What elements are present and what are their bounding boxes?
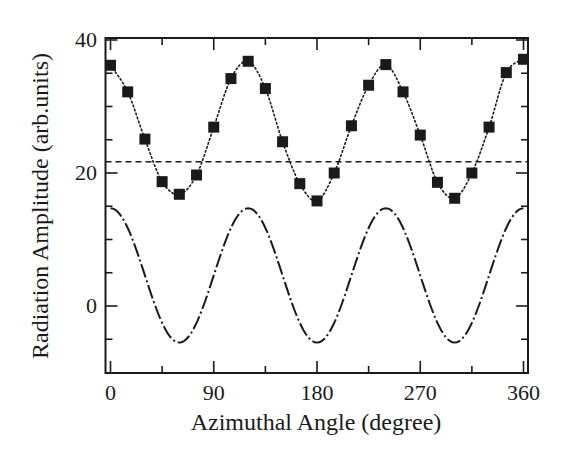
data-point-square	[260, 83, 271, 94]
data-point-square	[432, 177, 443, 188]
x-tick-label: 90	[203, 380, 225, 405]
data-point-square	[346, 120, 357, 131]
data-point-square	[157, 176, 168, 187]
y-tick-label: 40	[75, 27, 97, 52]
data-point-square	[225, 73, 236, 84]
y-tick-label: 0	[86, 293, 97, 318]
data-point-square	[243, 56, 254, 67]
x-tick-label: 180	[301, 380, 334, 405]
data-point-square	[191, 169, 202, 180]
data-point-square	[122, 86, 133, 97]
data-point-square	[139, 134, 150, 145]
x-tick-label: 270	[404, 380, 437, 405]
chart: 09018027036002040 Azimuthal Angle (degre…	[0, 0, 561, 459]
data-point-square	[294, 178, 305, 189]
data-point-square	[398, 86, 409, 97]
data-point-square	[466, 168, 477, 179]
data-point-square	[380, 59, 391, 70]
data-point-square	[363, 80, 374, 91]
data-point-square	[277, 136, 288, 147]
series-layer	[105, 54, 529, 343]
x-tick-label: 0	[105, 380, 116, 405]
data-point-square	[518, 54, 529, 65]
data-point-square	[449, 193, 460, 204]
data-point-square	[415, 130, 426, 141]
data-point-square	[312, 195, 323, 206]
data-point-square	[105, 60, 116, 71]
data-point-square	[484, 122, 495, 133]
x-axis-title: Azimuthal Angle (degree)	[191, 409, 442, 435]
cos3-component-dashdot-curve	[111, 208, 524, 342]
tick-labels: 09018027036002040	[75, 27, 540, 405]
measured-fit-dotted-line	[111, 59, 524, 201]
y-tick-label: 20	[75, 160, 97, 185]
data-point-square	[174, 189, 185, 200]
y-axis-title: Radiation Amplitude (arb.units)	[27, 53, 53, 359]
x-tick-label: 360	[507, 380, 540, 405]
data-point-square	[208, 122, 219, 133]
data-point-square	[501, 67, 512, 78]
data-point-square	[329, 168, 340, 179]
